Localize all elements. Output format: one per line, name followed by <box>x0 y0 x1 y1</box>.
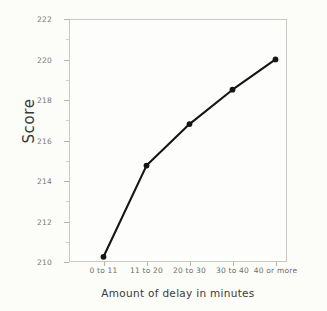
y-tick-label-220: 220 <box>20 55 52 64</box>
y-tick-label-222: 222 <box>20 15 52 24</box>
line-series-score <box>69 19 287 262</box>
y-tick-label-212: 212 <box>20 217 52 226</box>
y-tick-label-218: 218 <box>20 96 52 105</box>
data-point-1 <box>144 163 150 169</box>
data-point-2 <box>187 121 193 127</box>
y-tick-label-210: 210 <box>20 258 52 267</box>
x-axis-title: Amount of delay in minutes <box>69 287 287 299</box>
data-point-3 <box>230 87 236 93</box>
y-tick-label-214: 214 <box>20 177 52 186</box>
y-axis-title: Score <box>20 76 38 166</box>
data-point-4 <box>273 57 279 63</box>
y-tick-label-216: 216 <box>20 136 52 145</box>
x-tick-label-4: 40 or more <box>245 266 307 275</box>
data-line <box>104 59 276 256</box>
chart-figure: Score 222 220 218 216 214 212 210 0 to 1… <box>0 0 327 311</box>
data-point-0 <box>101 254 107 260</box>
y-tick-mark-210 <box>64 262 69 263</box>
